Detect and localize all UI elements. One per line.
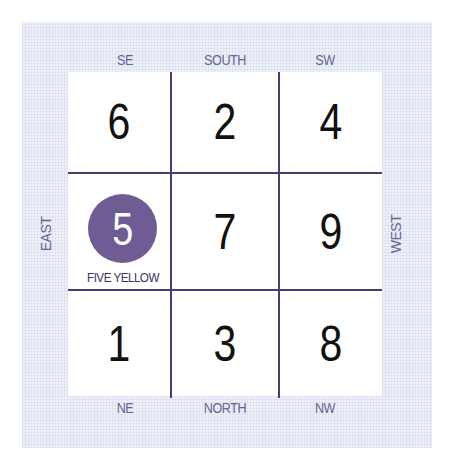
direction-label-ne: NE (103, 400, 148, 416)
grid-cell-center: 7 (172, 174, 278, 289)
direction-label-se: SE (103, 52, 148, 68)
grid-cell-ne: 1 (68, 291, 170, 396)
direction-label-nw: NW (303, 400, 348, 416)
star-number: 3 (214, 319, 237, 369)
star-number: 2 (214, 97, 237, 147)
grid-cell-se: 6 (68, 72, 170, 172)
grid-cell-south: 2 (172, 72, 278, 172)
direction-label-sw: SW (303, 52, 348, 68)
direction-label-west: WEST (388, 209, 404, 259)
star-number: 9 (320, 207, 343, 257)
grid-cell-sw: 4 (280, 72, 382, 172)
five-yellow-label: FIVE YELLOW (79, 270, 167, 285)
grid-cell-nw: 8 (280, 291, 382, 396)
star-number: 7 (214, 207, 237, 257)
star-number: 5 (112, 206, 133, 252)
star-number: 6 (108, 97, 131, 147)
direction-label-north: NORTH (189, 400, 261, 416)
star-number: 4 (320, 97, 343, 147)
star-number: 8 (320, 319, 343, 369)
grid-cell-west: 9 (280, 174, 382, 289)
five-yellow-badge: 5 (88, 194, 157, 263)
direction-label-east: EAST (38, 209, 54, 259)
star-number: 1 (108, 319, 131, 369)
grid-cell-north: 3 (172, 291, 278, 396)
direction-label-south: SOUTH (189, 52, 261, 68)
